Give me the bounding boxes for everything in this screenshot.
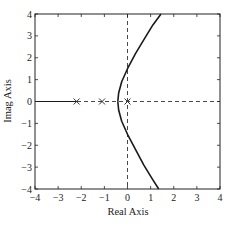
- plot-area: [35, 14, 220, 189]
- y-tick-label: 1: [27, 74, 32, 85]
- y-tick-label: 2: [27, 52, 32, 63]
- y-tick-label: −2: [21, 140, 32, 151]
- y-tick-label: 3: [27, 30, 32, 41]
- x-tick-label: −2: [76, 192, 87, 203]
- tick-labels: −4−3−2−101234−4−3−2−101234: [21, 9, 222, 204]
- y-tick-label: 0: [27, 96, 32, 107]
- x-tick-label: −1: [99, 192, 110, 203]
- y-axis-label: Imag Axis: [2, 79, 13, 122]
- x-tick-label: 4: [218, 192, 223, 203]
- x-tick-label: 1: [148, 192, 153, 203]
- y-tick-label: −1: [21, 118, 32, 129]
- root-locus-chart: −4−3−2−101234−4−3−2−101234 Real Axis Ima…: [0, 0, 233, 226]
- x-tick-label: 3: [194, 192, 199, 203]
- y-tick-label: −4: [21, 184, 32, 195]
- y-tick-label: 4: [27, 9, 32, 20]
- locus-upper-branch: [118, 14, 161, 102]
- x-axis-label: Real Axis: [107, 206, 148, 217]
- x-tick-label: 0: [125, 192, 130, 203]
- locus-lower-branch: [118, 102, 159, 190]
- y-tick-label: −3: [21, 162, 32, 173]
- x-tick-label: 2: [171, 192, 176, 203]
- x-tick-label: −3: [53, 192, 64, 203]
